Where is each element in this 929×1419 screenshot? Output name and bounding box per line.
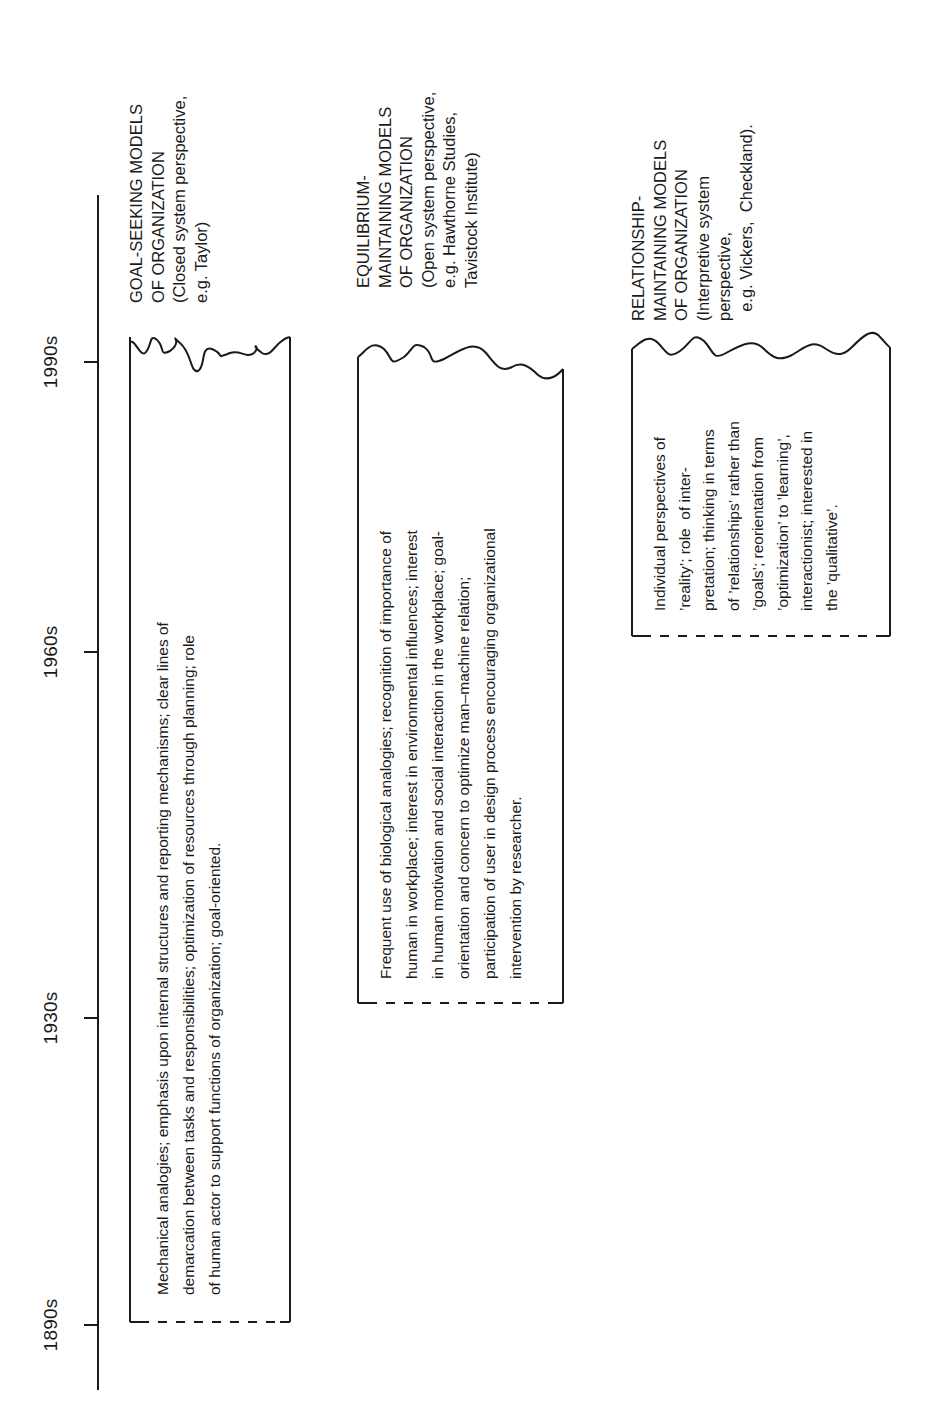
decade-label-1960s: 1960s xyxy=(40,626,62,679)
description-line: participation of user in design process … xyxy=(477,528,503,979)
heading-line: OF ORGANIZATION xyxy=(148,96,170,303)
description-line: ’reality’; role of inter- xyxy=(673,421,698,611)
description-line: interactionist; interested in xyxy=(795,421,820,611)
description-line: the ’qualitative’. xyxy=(820,421,845,611)
decade-label-1890s: 1890s xyxy=(40,1299,62,1352)
description-line: ’optimization’ to ’learning’, xyxy=(771,421,796,611)
heading-line: MAINTAINING MODELS xyxy=(650,124,672,321)
decade-label-1930s: 1930s xyxy=(40,992,62,1045)
decade-label-1990s: 1990s xyxy=(40,336,62,389)
description-line: pretation; thinking in terms xyxy=(697,421,722,611)
description-line: demarcation between tasks and responsibi… xyxy=(176,622,202,1295)
heading-goal-seeking: GOAL-SEEKING MODELS OF ORGANIZATION (Clo… xyxy=(126,96,212,303)
description-line: ’goals’; reorientation from xyxy=(746,421,771,611)
heading-line: RELATIONSHIP- xyxy=(628,124,650,321)
heading-line: Tavistock Institute) xyxy=(461,92,483,288)
heading-line: e.g. Hawthorne Studies, xyxy=(439,92,461,288)
description-goal-seeking: Mechanical analogies; emphasis upon inte… xyxy=(150,622,228,1295)
description-line: in human motivation and social interacti… xyxy=(425,528,451,979)
description-line: human in workplace; interest in environm… xyxy=(399,528,425,979)
heading-line: (Closed system perspective, xyxy=(169,96,191,303)
heading-line: EQUILIBRIUM- xyxy=(353,92,375,288)
description-line: of ’relationships’ rather than xyxy=(722,421,747,611)
heading-relationship: RELATIONSHIP- MAINTAINING MODELS OF ORGA… xyxy=(628,124,757,321)
description-line: of human actor to support functions of o… xyxy=(202,622,228,1295)
description-relationship: Individual perspectives of ’reality’; ro… xyxy=(648,421,844,611)
heading-line: OF ORGANIZATION xyxy=(671,124,693,321)
heading-line: e.g. Vickers, Checkland). xyxy=(736,124,758,321)
heading-equilibrium: EQUILIBRIUM- MAINTAINING MODELS OF ORGAN… xyxy=(353,92,482,288)
description-line: intervention by researcher. xyxy=(503,528,529,979)
description-line: Individual perspectives of xyxy=(648,421,673,611)
heading-line: perspective, xyxy=(714,124,736,321)
heading-line: (Interpretive system xyxy=(693,124,715,321)
heading-line: GOAL-SEEKING MODELS xyxy=(126,96,148,303)
heading-line: (Open system perspective, xyxy=(418,92,440,288)
heading-line: OF ORGANIZATION xyxy=(396,92,418,288)
description-line: Frequent use of biological analogies; re… xyxy=(373,528,399,979)
timeline-diagram: 1890s 1930s 1960s 1990s GOAL-SEEKING MOD… xyxy=(0,0,929,1419)
description-line: orientation and concern to optimize man–… xyxy=(451,528,477,979)
heading-line: MAINTAINING MODELS xyxy=(375,92,397,288)
heading-line: e.g. Taylor) xyxy=(191,96,213,303)
description-line: Mechanical analogies; emphasis upon inte… xyxy=(150,622,176,1295)
description-equilibrium: Frequent use of biological analogies; re… xyxy=(373,528,529,979)
